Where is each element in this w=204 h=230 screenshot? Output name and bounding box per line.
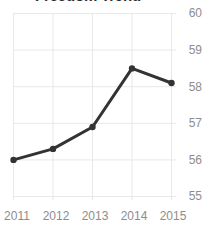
x-tick-label-2013: 2013 <box>75 210 115 222</box>
vertical-gridlines <box>14 13 172 200</box>
y-tick-label-58: 58 <box>174 81 202 93</box>
y-tick-label-56: 56 <box>174 154 202 166</box>
y-tick-label-57: 57 <box>174 117 202 129</box>
x-tick-label-2015: 2015 <box>153 210 193 222</box>
y-tick-label-55: 55 <box>174 190 202 202</box>
plot-svg <box>0 0 176 205</box>
freedom-trend-chart: Freedom Trend <box>0 0 204 230</box>
x-tick-label-2012: 2012 <box>36 210 76 222</box>
data-point-2011 <box>10 157 16 163</box>
plot-area <box>0 0 176 205</box>
x-tick-label-2014: 2014 <box>114 210 154 222</box>
y-tick-label-59: 59 <box>174 44 202 56</box>
data-point-2012 <box>50 146 56 152</box>
horizontal-gridlines <box>13 14 176 197</box>
data-point-2013 <box>89 124 95 130</box>
x-tick-label-2011: 2011 <box>0 210 37 222</box>
data-point-2014 <box>129 65 135 71</box>
y-tick-label-60: 60 <box>174 7 202 19</box>
